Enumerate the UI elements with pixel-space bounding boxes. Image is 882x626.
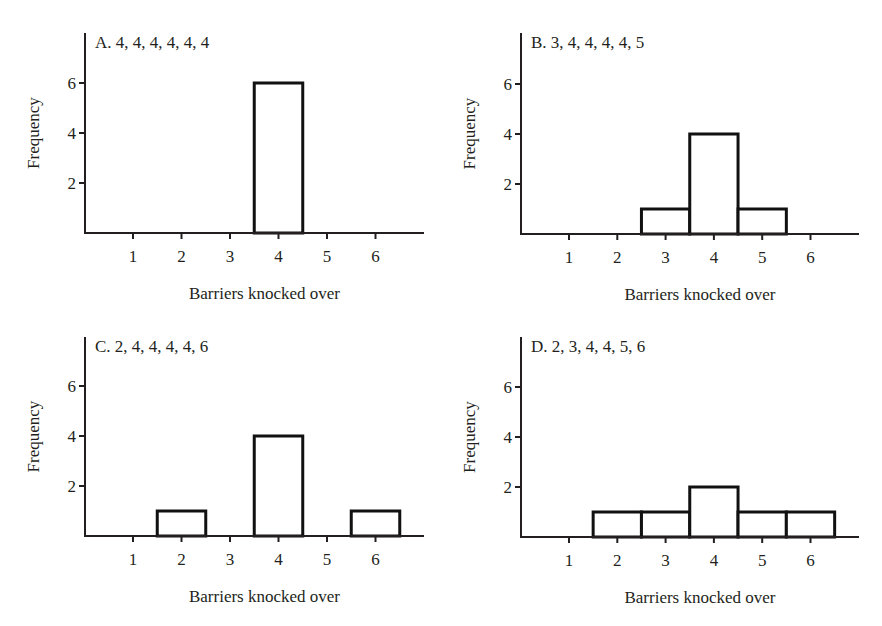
panel-a-bar-4 [254, 83, 303, 233]
y-tick-label: 2 [68, 174, 77, 193]
x-tick-label: 6 [371, 247, 380, 266]
panel-c-ylabel: Frequency [24, 400, 43, 472]
x-tick-label: 2 [613, 551, 622, 570]
y-tick-label: 4 [504, 125, 513, 144]
panel-c-xlabel: Barriers knocked over [189, 587, 340, 606]
x-tick-label: 4 [710, 248, 719, 267]
x-tick-label: 4 [710, 551, 719, 570]
panel-b-title: B. 3, 4, 4, 4, 4, 5 [531, 33, 644, 52]
panel-d-bar-3 [641, 512, 689, 537]
panel-d-bar-5 [738, 512, 786, 537]
panel-c-bar-2 [157, 511, 206, 536]
panel-d-title: D. 2, 3, 4, 4, 5, 6 [531, 337, 645, 356]
y-tick-label: 6 [68, 74, 77, 93]
panel-b-bar-3 [641, 209, 689, 234]
x-tick-label: 6 [806, 248, 815, 267]
panel-a: A. 4, 4, 4, 4, 4, 4 Frequency Barriers k… [24, 33, 424, 303]
x-tick-label: 3 [661, 551, 670, 570]
x-tick-label: 3 [661, 248, 670, 267]
x-tick-label: 2 [177, 550, 186, 569]
y-tick-label: 6 [504, 75, 513, 94]
x-tick-label: 6 [371, 550, 380, 569]
panel-c-bar-6 [351, 511, 400, 536]
y-tick-label: 4 [504, 428, 513, 447]
x-tick-label: 3 [226, 247, 235, 266]
panel-a-xlabel: Barriers knocked over [189, 284, 340, 303]
y-tick-label: 4 [68, 427, 77, 446]
x-tick-label: 1 [129, 550, 138, 569]
x-tick-label: 4 [274, 550, 283, 569]
x-tick-label: 2 [613, 248, 622, 267]
y-tick-label: 2 [504, 175, 513, 194]
panel-b: B. 3, 4, 4, 4, 4, 5 Frequency Barriers k… [460, 33, 859, 304]
x-tick-label: 3 [226, 550, 235, 569]
panel-c-title: C. 2, 4, 4, 4, 4, 6 [95, 337, 208, 356]
panel-a-ylabel: Frequency [24, 97, 43, 169]
x-tick-label: 1 [565, 248, 574, 267]
panel-b-bar-4 [690, 134, 738, 234]
y-tick-label: 2 [504, 478, 513, 497]
panel-d-ylabel: Frequency [460, 401, 479, 473]
panel-d: D. 2, 3, 4, 4, 5, 6 Frequency Barriers k… [460, 337, 859, 607]
x-tick-label: 1 [565, 551, 574, 570]
y-tick-label: 2 [68, 477, 77, 496]
panel-a-title: A. 4, 4, 4, 4, 4, 4 [95, 33, 210, 52]
x-tick-label: 4 [274, 247, 283, 266]
x-tick-label: 5 [323, 550, 332, 569]
panel-d-bar-2 [593, 512, 641, 537]
histogram-figure: A. 4, 4, 4, 4, 4, 4 Frequency Barriers k… [0, 0, 882, 626]
panel-d-bar-6 [786, 512, 834, 537]
panel-c-bar-4 [254, 436, 303, 536]
panel-b-bar-5 [738, 209, 786, 234]
panel-d-xlabel: Barriers knocked over [624, 588, 775, 607]
x-tick-label: 5 [758, 551, 767, 570]
y-tick-label: 6 [68, 377, 77, 396]
panel-b-xlabel: Barriers knocked over [624, 285, 775, 304]
panel-b-ylabel: Frequency [460, 97, 479, 169]
y-tick-label: 6 [504, 378, 513, 397]
x-tick-label: 1 [129, 247, 138, 266]
panel-c: C. 2, 4, 4, 4, 4, 6 Frequency Barriers k… [24, 337, 424, 606]
x-tick-label: 5 [323, 247, 332, 266]
x-tick-label: 2 [177, 247, 186, 266]
y-tick-label: 4 [68, 124, 77, 143]
x-tick-label: 5 [758, 248, 767, 267]
panel-d-bar-4 [690, 487, 738, 537]
x-tick-label: 6 [806, 551, 815, 570]
